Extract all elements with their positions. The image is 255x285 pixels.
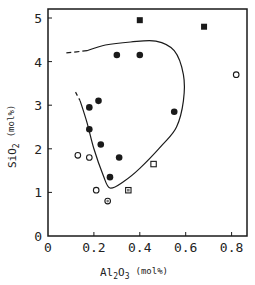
y-axis-ticks: 012345 — [34, 11, 52, 244]
x-axis-title: Al2O3(mol%) — [100, 266, 168, 281]
filled-square-marker — [201, 24, 207, 30]
x-tick-label: 0.8 — [220, 240, 243, 255]
y-tick-label: 2 — [34, 142, 42, 157]
filled-circle-marker — [107, 174, 114, 181]
x-tick-label: 0 — [44, 240, 52, 255]
filled-circle-marker — [114, 52, 121, 59]
filled-circle-marker — [95, 98, 102, 105]
x-tick-label: 0.2 — [82, 240, 105, 255]
filled-circle-marker — [171, 108, 178, 115]
boundary-curve-dashed-top — [66, 51, 87, 53]
plot-frame — [48, 9, 247, 236]
y-tick-label: 1 — [34, 185, 42, 200]
boundary-curve-solid — [80, 41, 184, 189]
filled-circle-marker — [86, 126, 93, 133]
x-tick-label: 0.6 — [174, 240, 197, 255]
open-circle-marker — [233, 72, 239, 78]
y-tick-label: 4 — [34, 55, 42, 70]
data-points — [75, 17, 239, 204]
x-tick-label: 0.4 — [128, 240, 152, 255]
open-circle-marker — [93, 187, 99, 193]
boundary-curve — [66, 41, 184, 189]
y-axis-title: SiO2(mol%) — [6, 105, 21, 168]
open-circle-marker — [87, 155, 93, 161]
y-tick-label: 3 — [34, 98, 42, 113]
filled-circle-marker — [86, 104, 93, 111]
open-square-marker — [151, 161, 156, 166]
boundary-curve-dashed-left — [76, 92, 81, 101]
filled-square-marker — [137, 17, 143, 23]
filled-circle-marker — [137, 52, 144, 59]
scatter-chart: 00.20.40.60.8 012345 Al2O3(mol%) SiO2(mo… — [0, 0, 255, 285]
y-tick-label: 0 — [34, 229, 42, 244]
filled-circle-marker — [116, 154, 123, 161]
dot-fill — [127, 189, 130, 192]
dot-fill — [106, 200, 109, 203]
y-tick-label: 5 — [34, 11, 42, 26]
filled-circle-marker — [97, 141, 104, 148]
open-circle-marker — [75, 153, 81, 159]
